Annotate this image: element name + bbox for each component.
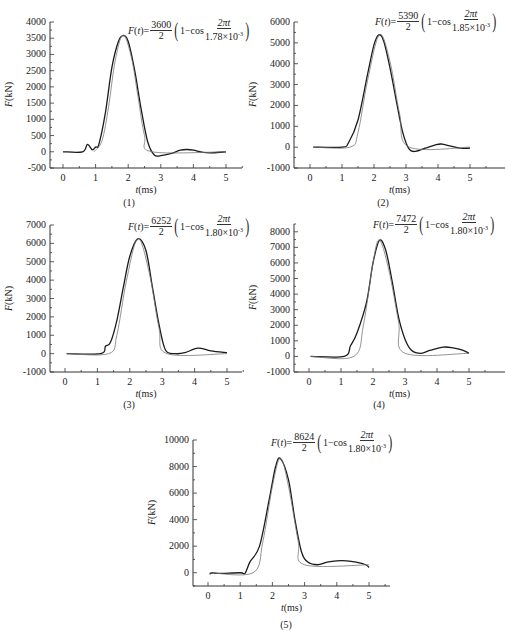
x-tick-label: 0 [56,173,70,183]
y-tick-label: 2000 [151,541,189,551]
x-tick-label: 5 [362,591,376,601]
y-tick-label: 3000 [8,49,46,59]
x-tick-label: 0 [201,591,215,601]
period-fraction: 2πt1.80×10-3 [450,212,488,236]
x-axis-label: t(ms) [380,184,420,195]
y-tick-label: 3000 [252,305,290,315]
y-tick-label: 7000 [252,242,290,252]
amplitude-fraction: 36002 [150,20,172,41]
formula-lhs: F(t)= [128,25,149,36]
y-tick-label: 0 [151,568,189,578]
formula-lhs: F(t)= [271,437,292,448]
chart-panel-4: F(t)=74722(1−cos2πt1.80×10-3) (4) -10000… [253,210,506,420]
formula-lhs: F(t)= [128,221,149,232]
y-tick-label: 5000 [252,38,290,48]
x-tick-label: 1 [90,377,104,387]
cos-term: 1−cos [425,219,449,230]
x-axis-label: t(ms) [272,602,312,613]
panel-caption: (4) [364,399,394,410]
x-tick-label: 4 [188,377,202,387]
x-tick-label: 4 [186,173,200,183]
panel-caption: (1) [114,197,144,208]
series-fit [313,34,470,149]
chart-panel-3: F(t)=62522(1−cos2πt1.80×10-3) (3) -10000… [0,210,253,420]
y-tick-label: 4000 [252,59,290,69]
y-axis-label: F(kN) [3,75,14,115]
panel-caption: (2) [368,197,398,208]
amplitude-fraction: 74722 [395,214,417,235]
y-tick-label: -1000 [252,367,290,377]
y-tick-label: 5000 [252,274,290,284]
chart-panel-2: F(t)=53902(1−cos2πt1.85×10-3) (2) -10000… [253,0,506,210]
x-tick-label: 1 [89,173,103,183]
series-fit [210,458,369,575]
y-tick-label: -1000 [252,163,290,173]
y-tick-label: -1000 [8,367,46,377]
series-measured [210,458,369,574]
x-tick-label: 0 [303,173,317,183]
y-tick-label: 3500 [8,33,46,43]
y-tick-label: 2500 [8,66,46,76]
amplitude-fraction: 62522 [150,216,172,237]
y-tick-label: 4000 [151,515,189,525]
formula-annotation: F(t)=53902(1−cos2πt1.85×10-3) [375,9,498,33]
x-tick-label: 2 [121,173,135,183]
x-tick-label: 1 [334,377,348,387]
y-tick-label: 6000 [151,488,189,498]
y-tick-label: 2000 [8,82,46,92]
series-fit [94,35,226,153]
x-tick-label: 5 [462,377,476,387]
y-tick-label: -500 [8,163,46,173]
x-tick-label: 5 [463,173,477,183]
cos-term: 1−cos [180,25,204,36]
formula-annotation: F(t)=74722(1−cos2πt1.80×10-3) [373,212,496,236]
x-tick-label: 3 [399,173,413,183]
y-tick-label: 1000 [8,114,46,124]
x-tick-label: 3 [154,173,168,183]
series-measured [313,35,470,152]
y-axis-label: F(kN) [247,75,258,115]
y-tick-label: 0 [8,349,46,359]
x-tick-label: 2 [123,377,137,387]
x-tick-label: 4 [430,377,444,387]
x-tick-label: 2 [367,173,381,183]
x-tick-label: 3 [298,591,312,601]
cos-term: 1−cos [180,221,204,232]
y-tick-label: 6000 [8,238,46,248]
y-tick-label: 6000 [252,258,290,268]
series-measured [67,239,227,355]
x-tick-label: 3 [155,377,169,387]
x-tick-label: 1 [233,591,247,601]
y-tick-label: 4000 [252,289,290,299]
y-tick-label: 0 [252,142,290,152]
y-tick-label: 1000 [8,330,46,340]
x-tick-label: 4 [330,591,344,601]
y-tick-label: 500 [8,131,46,141]
chart-panel-1: F(t)=36002(1−cos2πt1.78×10-3) (1) -50005… [0,0,253,210]
chart-panel-5: F(t)=86242(1−cos2πt1.80×10-3) (5) 020004… [150,420,420,641]
amplitude-fraction: 86242 [293,432,315,453]
x-tick-label: 1 [335,173,349,183]
panel-caption: (3) [114,399,144,410]
y-axis-label: F(kN) [146,493,157,533]
y-tick-label: 10000 [151,435,189,445]
y-tick-label: 8000 [151,462,189,472]
y-tick-label: 3000 [252,80,290,90]
formula-annotation: F(t)=36002(1−cos2πt1.78×10-3) [128,18,251,42]
formula-annotation: F(t)=86242(1−cos2πt1.80×10-3) [271,430,394,454]
series-fit [311,240,469,359]
y-tick-label: 7000 [8,220,46,230]
y-axis-label: F(kN) [247,278,258,318]
x-axis-label: t(ms) [380,388,420,399]
x-tick-label: 5 [219,173,233,183]
period-fraction: 2πt1.80×10-3 [205,214,243,238]
x-axis-label: t(ms) [126,184,166,195]
y-tick-label: 1500 [8,98,46,108]
y-tick-label: 8000 [252,227,290,237]
y-tick-label: 3000 [8,294,46,304]
amplitude-fraction: 53902 [397,11,419,32]
x-tick-label: 5 [220,377,234,387]
formula-lhs: F(t)= [375,16,396,27]
formula-annotation: F(t)=62522(1−cos2πt1.80×10-3) [128,214,251,238]
x-tick-label: 2 [265,591,279,601]
